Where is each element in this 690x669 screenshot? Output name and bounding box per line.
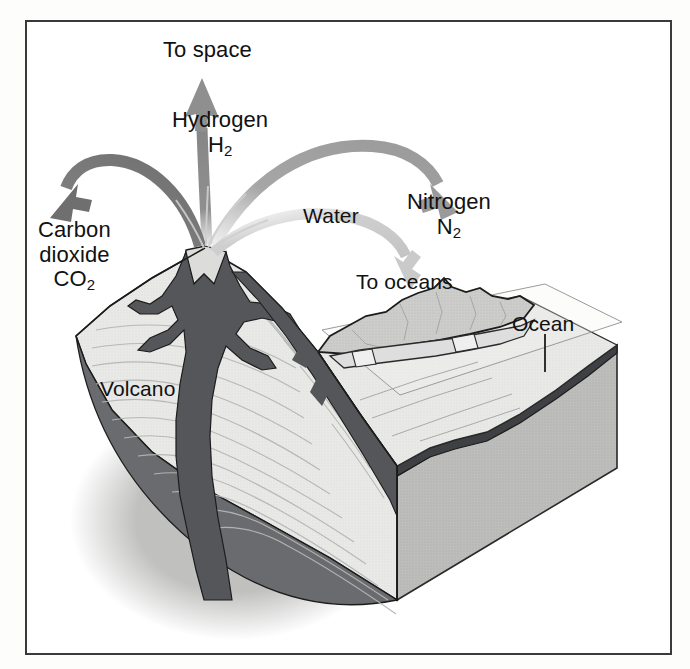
label-hydrogen-formula: H2 (172, 133, 268, 160)
label-nitrogen-name: Nitrogen (407, 190, 491, 215)
label-carbon-dioxide: Carbon dioxide CO2 (38, 218, 111, 294)
label-volcano: Volcano (100, 377, 175, 401)
label-ocean: Ocean (512, 312, 574, 336)
label-hydrogen-name: Hydrogen (172, 108, 268, 133)
label-carbon-formula: CO2 (38, 267, 111, 294)
label-hydrogen: Hydrogen H2 (172, 108, 268, 160)
label-carbon-line2: dioxide (38, 243, 111, 268)
figure-root: To space Hydrogen H2 Carbon dioxide CO2 … (0, 0, 690, 669)
terrain-terrace-notch-2 (352, 349, 376, 367)
diagram-canvas (0, 0, 690, 669)
label-to-oceans: To oceans (356, 270, 453, 294)
label-nitrogen: Nitrogen N2 (407, 190, 491, 242)
label-water: Water (303, 204, 359, 228)
label-nitrogen-formula: N2 (407, 215, 491, 242)
label-to-space: To space (163, 38, 252, 63)
label-carbon-line1: Carbon (38, 218, 111, 243)
